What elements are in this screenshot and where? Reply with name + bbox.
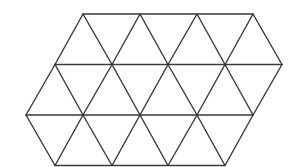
diagonal-edge: [26, 65, 55, 116]
triangle-tessellation-diagram: [0, 0, 295, 167]
triangle-grid: [0, 0, 295, 167]
diagonal-edge: [140, 65, 168, 116]
diagonal-edge: [197, 115, 225, 166]
diagonal-edge: [168, 14, 197, 65]
diagonal-edge: [197, 65, 225, 116]
diagonal-edge: [55, 115, 83, 166]
diagonal-edge: [55, 14, 83, 65]
diagonal-edge: [197, 14, 225, 65]
diagonal-edge: [140, 14, 168, 65]
diagonal-edge: [83, 115, 112, 166]
diagonal-edge: [83, 65, 112, 116]
diagonal-edge: [225, 115, 253, 166]
diagonal-edge: [168, 65, 197, 116]
diagonal-edge: [26, 115, 55, 166]
diagonal-edge: [140, 115, 168, 166]
diagonal-edge: [225, 65, 253, 116]
diagonal-edge: [112, 65, 140, 116]
diagonal-edge: [83, 14, 112, 65]
diagonal-edge: [253, 65, 282, 116]
diagonal-edge: [225, 14, 253, 65]
diagonal-edge: [112, 14, 140, 65]
diagonal-edge: [253, 14, 282, 65]
diagonal-edge: [112, 115, 140, 166]
diagonal-edge: [55, 65, 83, 116]
diagonal-edge: [168, 115, 197, 166]
